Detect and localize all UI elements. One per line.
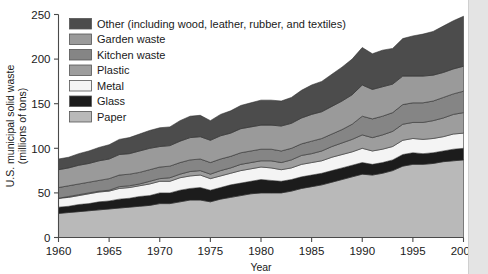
legend-label: Metal (97, 80, 124, 92)
legend-swatch (70, 50, 92, 61)
y-tick-label: 200 (31, 53, 50, 65)
legend-label: Garden waste (97, 33, 165, 45)
y-tick-label: 50 (38, 187, 51, 199)
legend-swatch (70, 81, 92, 92)
x-tick-label: 1980 (248, 245, 274, 257)
x-tick-label: 1975 (198, 245, 224, 257)
x-tick-label: 1995 (400, 245, 426, 257)
legend-swatch (70, 65, 92, 76)
legend-item: Garden waste (70, 33, 166, 45)
legend-item: Plastic (70, 64, 130, 76)
y-tick-label: 250 (31, 9, 50, 21)
x-tick-labels: 196019651970197519801985199019952000 (46, 245, 477, 257)
x-tick-label: 1970 (147, 245, 173, 257)
right-edge-strip (468, 0, 488, 274)
y-axis-title-line2: (millions of tons) (16, 88, 28, 164)
legend-item: Kitchen waste (70, 49, 166, 61)
legend-swatch (70, 19, 92, 30)
legend-item: Paper (70, 111, 127, 123)
y-tick-label: 100 (31, 143, 50, 155)
legend-swatch (70, 96, 92, 107)
y-tick-label: 150 (31, 98, 50, 110)
x-tick-label: 1960 (46, 245, 72, 257)
scan-edge-artifact (468, 0, 488, 274)
y-axis-title-line1: U.S. municipal solid waste (4, 65, 16, 188)
legend-label: Plastic (97, 64, 130, 76)
chart-figure: 196019651970197519801985199019952000 050… (0, 0, 488, 274)
x-tick-label: 1985 (299, 245, 325, 257)
legend-label: Glass (97, 95, 126, 107)
legend-swatch (70, 34, 92, 45)
y-tick-label: 0 (44, 232, 50, 244)
legend-label: Paper (97, 111, 127, 123)
legend-item: Other (including wood, leather, rubber, … (70, 18, 346, 30)
x-axis-title: Year (250, 261, 272, 273)
stacked-area-chart: 196019651970197519801985199019952000 050… (0, 0, 488, 274)
legend-label: Other (including wood, leather, rubber, … (97, 18, 346, 30)
legend-item: Glass (70, 95, 126, 107)
x-tick-label: 1965 (96, 245, 122, 257)
legend-swatch (70, 112, 92, 123)
x-tick-label: 1990 (349, 245, 375, 257)
legend-item: Metal (70, 80, 124, 92)
legend-label: Kitchen waste (97, 49, 165, 61)
